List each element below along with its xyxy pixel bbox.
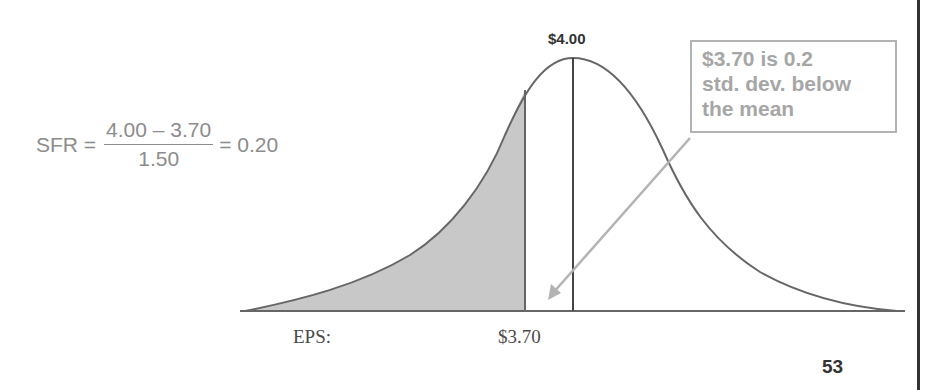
mean-label: $4.00	[548, 30, 586, 47]
formula-result: = 0.20	[219, 133, 278, 157]
slide-right-border	[917, 0, 920, 390]
callout-line-2: std. dev. below	[702, 71, 885, 96]
callout-line-1: $3.70 is 0.2	[702, 46, 885, 71]
callout-line-3: the mean	[702, 96, 885, 121]
formula-denominator: 1.50	[138, 145, 179, 171]
formula-fraction: 4.00 – 3.70 1.50	[104, 118, 213, 171]
formula-lhs: SFR =	[36, 133, 96, 157]
page-number: 53	[822, 356, 843, 378]
threshold-tick-label: $3.70	[498, 326, 541, 348]
formula-numerator: 4.00 – 3.70	[104, 118, 213, 145]
shaded-tail-region	[245, 90, 525, 311]
axis-label: EPS:	[293, 326, 331, 348]
callout-box: $3.70 is 0.2 std. dev. below the mean	[690, 40, 897, 133]
sfr-formula: SFR = 4.00 – 3.70 1.50 = 0.20	[36, 118, 278, 171]
